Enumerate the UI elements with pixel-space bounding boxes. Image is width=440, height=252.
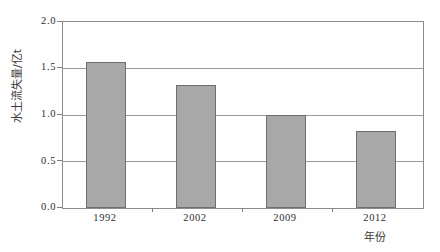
x-tick-label-2012: 2012 xyxy=(340,212,410,223)
y-tick-label-1-5: 1.5 xyxy=(12,61,56,72)
bar-2002 xyxy=(176,85,216,208)
bar-chart: 水土流失量/亿t 2.0 1.5 1.0 0.5 0.0 1992 2002 2… xyxy=(0,0,440,252)
x-tick-mark-1 xyxy=(152,208,153,212)
bar-2012 xyxy=(356,131,396,208)
x-axis-title: 年份 xyxy=(340,228,410,244)
y-axis-title: 水土流失量/亿t xyxy=(8,26,24,146)
y-tick-label-1-0: 1.0 xyxy=(12,108,56,119)
x-tick-mark-3 xyxy=(332,208,333,212)
y-tick-label-2-0: 2.0 xyxy=(12,15,56,26)
y-tick-label-0-0: 0.0 xyxy=(12,201,56,212)
y-tick-label-0-5: 0.5 xyxy=(12,155,56,166)
x-tick-label-2002: 2002 xyxy=(160,212,230,223)
x-tick-label-1992: 1992 xyxy=(70,212,140,223)
bar-1992 xyxy=(86,62,126,208)
bar-2009 xyxy=(266,115,306,208)
plot-area xyxy=(62,21,424,209)
x-tick-mark-2 xyxy=(242,208,243,212)
x-tick-label-2009: 2009 xyxy=(250,212,320,223)
